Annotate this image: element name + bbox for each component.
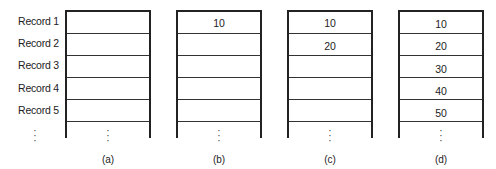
cell-value: 40	[400, 85, 482, 97]
caption-c: (c)	[287, 154, 373, 165]
table-d: 10 20 30 40 50 ···	[398, 10, 484, 138]
cell-value: 10	[289, 17, 371, 29]
record-label: Record 1	[18, 15, 56, 27]
caption-b: (b)	[176, 154, 262, 165]
cell-value: 20	[289, 40, 371, 52]
ellipsis-icon: ···	[436, 128, 446, 143]
cell-value: 30	[400, 63, 482, 75]
record-label: Record 4	[18, 82, 56, 94]
ellipsis-icon: ···	[214, 128, 224, 143]
cell-value: 50	[400, 107, 482, 119]
caption-a: (a)	[65, 154, 151, 165]
ellipsis-icon: ···	[325, 128, 335, 143]
table-c: 10 20 ···	[287, 10, 373, 138]
table-b: 10 ···	[176, 10, 262, 138]
ellipsis-icon: ···	[103, 128, 113, 143]
cell-value: 10	[178, 17, 260, 29]
cell-value: 20	[400, 40, 482, 52]
record-label: Record 5	[18, 104, 56, 116]
caption-d: (d)	[398, 154, 484, 165]
ellipsis-icon: ···	[30, 128, 40, 143]
cell-value: 10	[400, 18, 482, 30]
table-a: ···	[65, 10, 151, 138]
record-label: Record 3	[18, 59, 56, 71]
record-label: Record 2	[18, 37, 56, 49]
